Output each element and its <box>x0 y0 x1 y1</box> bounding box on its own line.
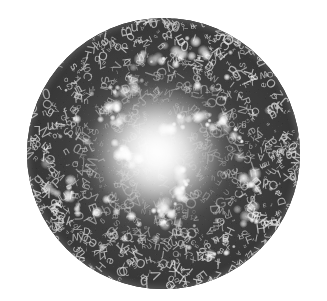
disc-edge-highlight <box>27 18 300 289</box>
artwork-canvas: ikcTfT0uZzWnGwsZ7MYludLYIHlJeBzgmjbKSJt5… <box>0 0 327 301</box>
galaxy-disc: ikcTfT0uZzWnGwsZ7MYludLYIHlJeBzgmjbKSJt5… <box>27 18 300 289</box>
